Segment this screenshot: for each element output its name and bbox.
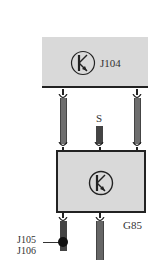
module-label-j104: J104 (100, 57, 121, 69)
wire-bottom-middle (96, 221, 104, 260)
wire-right (134, 98, 141, 144)
signal-label-s: S (96, 112, 102, 124)
junction-dot (58, 237, 68, 247)
wire-left (60, 98, 67, 144)
junction-label-j105: J105 (17, 234, 36, 245)
transistor-icon (88, 170, 114, 196)
junction-label-j106: J106 (17, 245, 36, 256)
transistor-icon (70, 50, 96, 76)
module-label-g85: G85 (123, 219, 142, 231)
